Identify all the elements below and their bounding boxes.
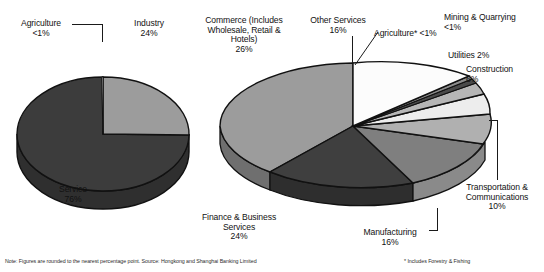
left-label-industry: Industry 24% (118, 19, 180, 38)
leader-line-transportation-horizontal (489, 120, 498, 121)
right-label-mining: Mining & Quarrying <1% (444, 13, 540, 32)
right-label-manufacturing: Manufacturing 16% (349, 228, 431, 247)
leader-line-mining (345, 30, 385, 68)
leader-line-agriculture-left-horizontal (72, 24, 103, 25)
leader-line-agriculture-left-vertical (102, 24, 103, 42)
left-label-agriculture: Agriculture <1% (8, 19, 74, 38)
right-label-agriculture: Agriculture* <1% (374, 29, 454, 39)
footnote-source: Note: Figures are rounded to the nearest… (5, 258, 257, 264)
right-label-utilities: Utilities 2% (448, 51, 518, 61)
right-label-commerce: Commerce (Includes Wholesale, Retail & H… (196, 16, 292, 54)
figure-canvas: Agriculture <1% Industry 24% Service 76%… (0, 0, 544, 272)
right-label-transportation: Transportation & Communications 10% (452, 183, 542, 212)
right-label-construction: Construction 6% (466, 65, 542, 84)
leader-line-transportation-vertical (497, 120, 498, 180)
left-slice-industry (103, 77, 189, 135)
footnote-agriculture: * Includes Forestry & Fishing (404, 258, 470, 264)
right-label-finance: Finance & Business Services 24% (190, 213, 288, 242)
left-label-service: Service 76% (40, 185, 106, 204)
leader-line-manufacturing-vertical (437, 208, 438, 230)
